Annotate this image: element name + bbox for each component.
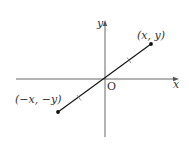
point-label-x-y: (x, y) (137, 29, 165, 42)
point-label-neg-x-neg-y: (−x, −y) (15, 93, 61, 106)
origin-label: O (107, 80, 116, 93)
point-neg-x-neg-y (56, 110, 60, 114)
y-axis-label: y (96, 17, 104, 30)
coordinate-diagram: y x O (x, y) (−x, −y) (0, 0, 189, 144)
point-x-y (149, 42, 153, 46)
y-axis-arrow-icon (103, 20, 107, 26)
x-axis-label: x (173, 78, 180, 91)
segment-through-origin (58, 44, 151, 112)
equal-length-tick-upper (127, 58, 131, 64)
